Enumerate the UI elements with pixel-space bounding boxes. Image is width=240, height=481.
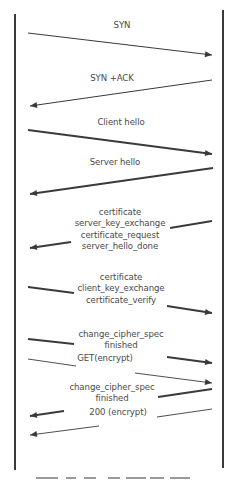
arrow-line: [28, 33, 212, 55]
message-syn: [28, 33, 212, 57]
message-label-response-200: 200 (encrypt): [89, 407, 146, 418]
message-label-server-change-cipher: change_cipher_specfinished: [69, 382, 154, 405]
label-line: SYN: [114, 20, 131, 31]
label-line: GET(encrypt): [77, 353, 133, 364]
message-client-hello: [28, 130, 212, 156]
label-line: certificate: [77, 272, 164, 283]
message-server-hello: [30, 168, 213, 196]
label-line: finished: [78, 340, 163, 351]
caption-fragment: [108, 477, 120, 479]
figure-caption-cropped: [0, 474, 240, 481]
arrowhead-icon: [205, 51, 212, 57]
label-line: change_cipher_spec: [69, 382, 154, 393]
label-line: certificate_verify: [77, 295, 164, 306]
arrow-line: [158, 389, 212, 397]
label-line: client_key_exchange: [77, 283, 164, 294]
caption-fragment: [84, 477, 96, 479]
arrow-line: [157, 409, 212, 417]
label-line: certificate_request: [75, 230, 166, 241]
message-label-syn-ack: SYN +ACK: [90, 73, 134, 84]
message-label-client-hello: Client hello: [97, 117, 144, 128]
message-label-server-hello: Server hello: [90, 157, 140, 168]
caption-fragment: [36, 477, 58, 479]
arrow-line: [30, 426, 99, 435]
label-line: certificate: [75, 207, 166, 218]
label-line: Client hello: [97, 117, 144, 128]
caption-fragment: [126, 477, 146, 479]
arrow-line: [28, 339, 74, 344]
arrow-line: [30, 168, 213, 194]
arrow-line: [28, 130, 212, 154]
arrowhead-icon: [205, 379, 212, 385]
label-line: change_cipher_spec: [78, 329, 163, 340]
message-label-syn: SYN: [114, 20, 131, 31]
arrow-line: [170, 221, 212, 228]
message-label-server-certificate-block: certificateserver_key_exchangecertificat…: [75, 207, 166, 253]
caption-fragment: [150, 477, 164, 479]
message-label-get-request: GET(encrypt): [77, 353, 133, 364]
label-line: finished: [69, 393, 154, 404]
label-line: server_hello_done: [75, 241, 166, 252]
arrowhead-icon: [30, 431, 37, 437]
label-line: server_key_exchange: [75, 218, 166, 229]
arrow-line: [28, 359, 76, 366]
caption-fragment: [66, 477, 76, 479]
message-label-client-change-cipher: change_cipher_specfinished: [78, 329, 163, 352]
message-label-client-certificate-block: certificateclient_key_exchangecertificat…: [77, 272, 164, 306]
label-line: Server hello: [90, 157, 140, 168]
arrow-line: [28, 287, 74, 293]
label-line: 200 (encrypt): [89, 407, 146, 418]
arrowhead-icon: [30, 102, 37, 108]
caption-fragment: [170, 477, 190, 479]
label-line: SYN +ACK: [90, 73, 134, 84]
